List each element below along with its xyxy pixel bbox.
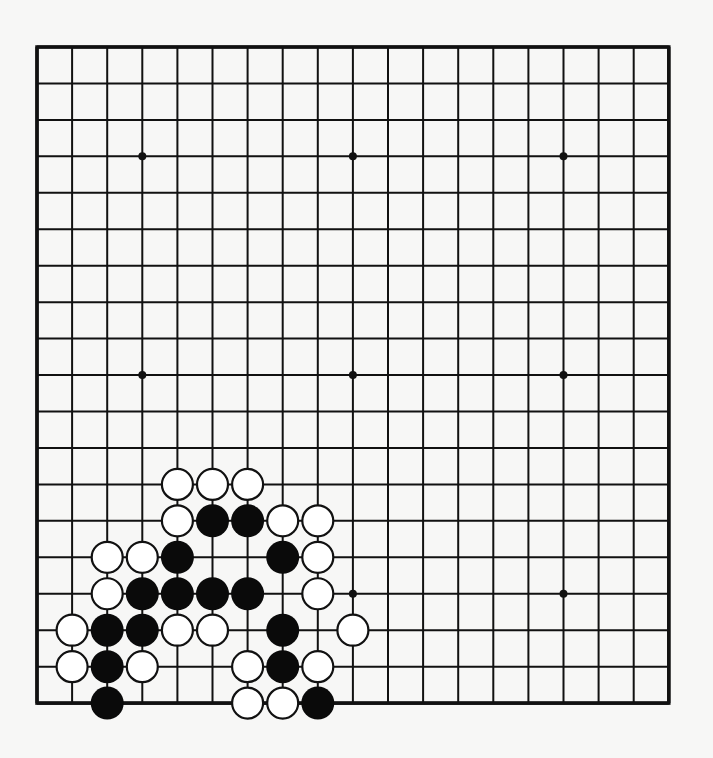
- white-stone[interactable]: [197, 615, 228, 646]
- white-stone[interactable]: [162, 469, 193, 500]
- black-stone[interactable]: [266, 541, 299, 574]
- star-point-icon: [349, 590, 357, 598]
- black-stone[interactable]: [196, 577, 229, 610]
- star-point-icon: [138, 152, 146, 160]
- black-stone[interactable]: [91, 687, 124, 720]
- white-stone[interactable]: [162, 505, 193, 536]
- black-stone[interactable]: [126, 614, 159, 647]
- white-stone[interactable]: [337, 615, 368, 646]
- white-stone[interactable]: [302, 542, 333, 573]
- white-stone[interactable]: [57, 615, 88, 646]
- black-stone[interactable]: [196, 504, 229, 537]
- white-stone[interactable]: [267, 505, 298, 536]
- white-stone[interactable]: [162, 615, 193, 646]
- black-stone[interactable]: [161, 541, 194, 574]
- black-stone[interactable]: [161, 577, 194, 610]
- star-point-icon: [349, 152, 357, 160]
- go-board[interactable]: [0, 0, 713, 758]
- white-stone[interactable]: [92, 578, 123, 609]
- go-board-grid[interactable]: [0, 0, 713, 758]
- star-point-icon: [138, 371, 146, 379]
- black-stone[interactable]: [91, 650, 124, 683]
- star-point-icon: [560, 371, 568, 379]
- white-stone[interactable]: [197, 469, 228, 500]
- white-stone[interactable]: [302, 651, 333, 682]
- black-stone[interactable]: [266, 614, 299, 647]
- white-stone[interactable]: [232, 688, 263, 719]
- white-stone[interactable]: [57, 651, 88, 682]
- white-stone[interactable]: [302, 505, 333, 536]
- black-stone[interactable]: [301, 687, 334, 720]
- black-stone[interactable]: [266, 650, 299, 683]
- white-stone[interactable]: [302, 578, 333, 609]
- star-point-icon: [560, 590, 568, 598]
- white-stone[interactable]: [232, 651, 263, 682]
- black-stone[interactable]: [126, 577, 159, 610]
- white-stone[interactable]: [92, 542, 123, 573]
- white-stone[interactable]: [127, 542, 158, 573]
- black-stone[interactable]: [91, 614, 124, 647]
- black-stone[interactable]: [231, 577, 264, 610]
- white-stone[interactable]: [267, 688, 298, 719]
- star-point-icon: [560, 152, 568, 160]
- white-stone[interactable]: [127, 651, 158, 682]
- black-stone[interactable]: [231, 504, 264, 537]
- star-point-icon: [349, 371, 357, 379]
- white-stone[interactable]: [232, 469, 263, 500]
